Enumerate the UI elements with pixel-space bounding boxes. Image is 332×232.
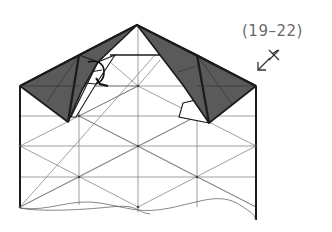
arrow-with-x-icon: [258, 50, 279, 70]
wavy-bottom-edge-2: [20, 206, 150, 214]
crease-pattern-drawing: [0, 0, 332, 232]
crease-grid: [20, 25, 256, 212]
